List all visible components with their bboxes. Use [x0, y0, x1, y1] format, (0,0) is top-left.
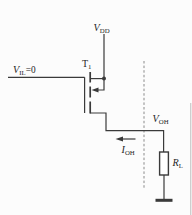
substrate-arrowhead-icon: [92, 87, 99, 92]
input-voltage-label: VIL=0: [13, 64, 36, 76]
output-voltage-label: VOH: [153, 113, 169, 125]
output-current-arrowhead-icon: [116, 136, 124, 141]
circuit-figure: VDD T1 VIL=0 VOH IOH RL: [0, 0, 192, 215]
junction-dot: [102, 77, 106, 81]
transistor-label: T1: [82, 58, 92, 70]
ground-symbol-icon: [156, 199, 173, 202]
load-resistor-label: RL: [172, 157, 183, 169]
output-current-label: IOH: [121, 144, 135, 156]
schematic-svg: VDD T1 VIL=0 VOH IOH RL: [0, 0, 192, 215]
vdd-label: VDD: [94, 22, 110, 34]
load-resistor-body: [160, 152, 169, 175]
